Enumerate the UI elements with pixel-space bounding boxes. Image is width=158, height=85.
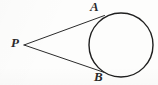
point-label-a: A — [90, 0, 99, 13]
point-label-p: P — [11, 36, 19, 49]
figure-canvas — [0, 0, 158, 85]
geometry-figure: P A B — [0, 0, 158, 85]
circle-shape — [89, 13, 153, 77]
point-label-b: B — [94, 70, 103, 83]
